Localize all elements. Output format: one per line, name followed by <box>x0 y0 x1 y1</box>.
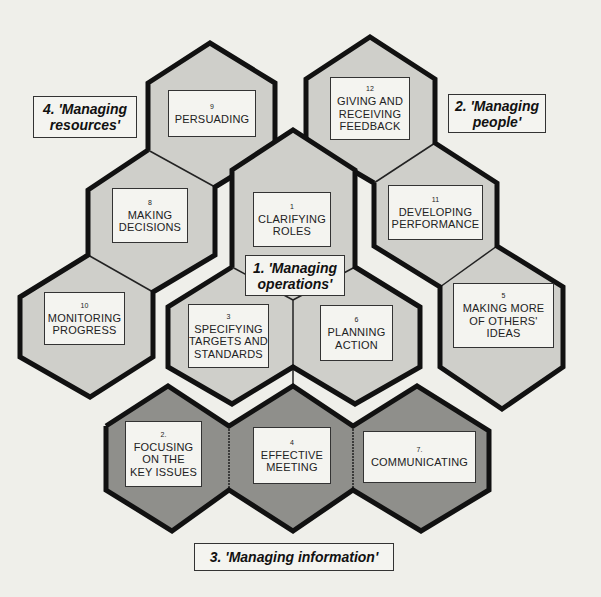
skill-number: 5 <box>502 291 506 300</box>
skill-label: EFFECTIVE MEETING <box>261 449 323 474</box>
skill-label: MAKING MORE OF OTHERS' IDEAS <box>463 302 545 340</box>
group-label-managing-resources: 4. 'Managing resources' <box>33 96 137 138</box>
group-label-managing-information: 3. 'Managing information' <box>194 543 394 571</box>
skill-box-10: 10 MONITORING PROGRESS <box>44 292 125 345</box>
skill-number: 12 <box>366 84 374 93</box>
skill-label: MAKING DECISIONS <box>119 209 181 234</box>
skill-number: 4 <box>290 438 294 447</box>
skill-number: 7. <box>417 445 423 454</box>
skill-box-6: 6 PLANNING ACTION <box>320 305 393 361</box>
skill-label: FOCUSING ON THE KEY ISSUES <box>130 441 197 479</box>
skill-box-9: 9 PERSUADING <box>168 90 256 137</box>
skill-box-12: 12 GIVING AND RECEIVING FEEDBACK <box>330 77 410 140</box>
skill-label: COMMUNICATING <box>371 456 468 469</box>
skill-box-1: 1 CLARIFYING ROLES <box>253 192 331 247</box>
skill-number: 2. <box>161 430 167 439</box>
skill-box-11: 11 DEVELOPING PERFORMANCE <box>388 185 483 240</box>
skill-number: 9 <box>210 102 214 111</box>
skill-label: MONITORING PROGRESS <box>48 312 121 337</box>
skill-box-8: 8 MAKING DECISIONS <box>112 188 188 243</box>
skill-box-3: 3 SPECIFYING TARGETS AND STANDARDS <box>188 304 269 368</box>
skill-number: 3 <box>227 312 231 321</box>
skill-number: 1 <box>290 202 294 211</box>
skill-box-7: 7. COMMUNICATING <box>363 431 476 483</box>
skill-number: 11 <box>432 195 439 204</box>
skill-label: GIVING AND RECEIVING FEEDBACK <box>337 95 403 133</box>
skill-number: 8 <box>148 198 152 207</box>
skill-label: CLARIFYING ROLES <box>258 213 326 238</box>
group-label-managing-operations: 1. 'Managing operations' <box>245 255 345 296</box>
skill-label: PERSUADING <box>175 113 250 126</box>
skill-box-5: 5 MAKING MORE OF OTHERS' IDEAS <box>453 283 554 348</box>
skill-box-4: 4 EFFECTIVE MEETING <box>253 427 331 484</box>
group-label-managing-people: 2. 'Managing people' <box>448 94 546 133</box>
skill-label: PLANNING ACTION <box>328 326 386 351</box>
skill-box-2: 2. FOCUSING ON THE KEY ISSUES <box>125 421 202 487</box>
skill-number: 6 <box>355 315 359 324</box>
skill-number: 10 <box>81 301 89 310</box>
skill-label: DEVELOPING PERFORMANCE <box>392 206 480 231</box>
skill-label: SPECIFYING TARGETS AND STANDARDS <box>189 323 268 361</box>
